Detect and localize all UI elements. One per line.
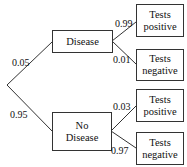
node-no-disease: No Disease xyxy=(52,112,112,151)
node-disease: Disease xyxy=(52,30,113,53)
prob-disease: 0.05 xyxy=(12,58,30,68)
leaf-line1: Tests xyxy=(149,137,170,149)
branch-root-no-disease xyxy=(7,85,52,131)
leaf-line1: Tests xyxy=(149,9,170,21)
prob-no-disease: 0.95 xyxy=(10,110,28,120)
leaf-line2: positive xyxy=(143,106,176,118)
node-disease-tests-positive: Tests positive xyxy=(136,4,184,37)
prob-disease-negative: 0.01 xyxy=(113,55,131,65)
leaf-line2: negative xyxy=(142,149,178,161)
node-no-disease-line1: No xyxy=(76,120,89,132)
leaf-line2: positive xyxy=(143,21,176,33)
node-nodisease-tests-negative: Tests negative xyxy=(136,132,184,165)
node-disease-label: Disease xyxy=(66,36,99,48)
prob-nodisease-negative: 0.97 xyxy=(111,146,129,156)
node-no-disease-line2: Disease xyxy=(66,132,99,144)
prob-disease-positive: 0.99 xyxy=(115,19,133,29)
prob-nodisease-positive: 0.03 xyxy=(113,102,131,112)
leaf-line1: Tests xyxy=(149,94,170,106)
leaf-line2: negative xyxy=(142,65,178,77)
node-disease-tests-negative: Tests negative xyxy=(136,49,184,81)
leaf-line1: Tests xyxy=(149,53,170,65)
node-nodisease-tests-positive: Tests positive xyxy=(136,89,184,122)
